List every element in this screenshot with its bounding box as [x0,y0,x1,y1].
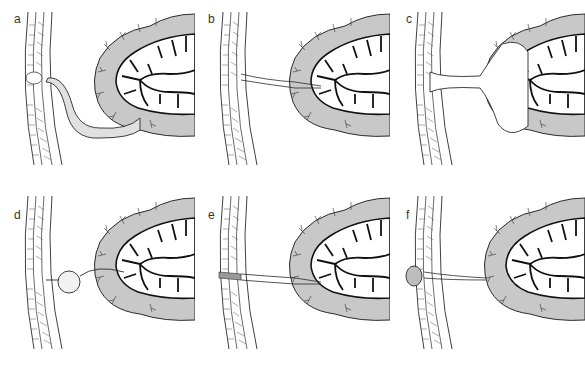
panel-label-e: e [208,208,215,222]
panel-f: f [390,184,585,368]
panel-label-b: b [208,12,215,26]
diagram-f [390,184,585,368]
panel-e: e [195,184,390,368]
panel-label-d: d [14,208,21,222]
diagram-c [390,0,585,184]
diagram-a [0,0,195,184]
panel-label-f: f [406,208,409,222]
panel-label-c: c [406,12,412,26]
panel-label-a: a [14,12,21,26]
panel-a: a [0,0,195,184]
diagram-d [0,184,195,368]
diagram-b [195,0,390,184]
panel-c: c [390,0,585,184]
diagram-e [195,184,390,368]
panel-b: b [195,0,390,184]
panel-d: d [0,184,195,368]
